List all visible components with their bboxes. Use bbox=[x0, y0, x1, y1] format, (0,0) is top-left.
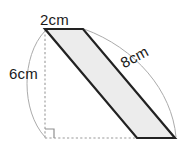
parallelogram-shape bbox=[45, 29, 175, 138]
right-angle-marker-icon bbox=[45, 129, 54, 138]
geometry-figure: 2cm 6cm 8cm bbox=[0, 0, 183, 151]
measure-arc-left bbox=[27, 31, 45, 137]
dimension-label-height: 6cm bbox=[9, 66, 38, 81]
dimension-label-top: 2cm bbox=[40, 12, 69, 27]
